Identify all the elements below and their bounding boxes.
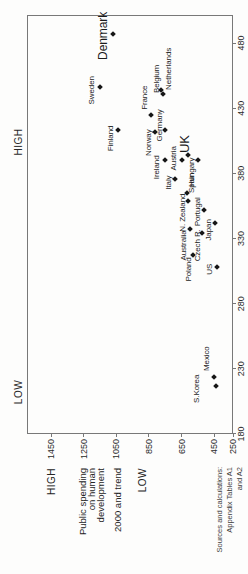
source-note-line-1: Sources and calculations: [215,467,224,574]
x-axis-low-label: LOW [13,367,24,417]
y-axis-tick [116,434,117,437]
y-axis-tick [51,434,52,437]
data-point-label: S.Korea [192,339,201,439]
x-axis-tick-label: 480 [236,30,246,56]
data-point-label: Finland [106,88,115,188]
y-axis-tick-label: 650 [177,439,187,471]
x-axis-tick-label: 230 [236,356,246,382]
data-point-label: Mexico [202,309,211,409]
y-axis-tick [148,434,149,437]
data-point-label: Ireland [152,117,161,217]
data-point-label: Denmark [96,0,110,86]
y-axis-low-label: LOW [137,468,148,574]
source-note-line-3: and A2 [235,467,244,574]
data-point-label: Poland [184,219,193,319]
y-axis-tick-label: 850 [144,439,154,471]
figure-page: LOW HIGH HIGH Public spending on human d… [0,0,248,574]
data-point-label: Sweden [87,40,96,140]
y-axis-tick [233,434,234,437]
y-axis-tick [181,434,182,437]
x-axis-tick-label: 280 [236,291,246,317]
data-point-label: Netherlands [164,19,173,119]
y-axis-high-label: HIGH [46,468,57,574]
y-axis-tick-label: 1250 [79,439,89,471]
y-axis-tick-label: 1450 [46,439,56,471]
rotated-chart-stage: LOW HIGH HIGH Public spending on human d… [0,0,248,574]
y-axis-tick [214,434,215,437]
y-axis-tick-label: 1050 [111,439,121,471]
x-axis-high-label: HIGH [13,117,24,167]
data-point-label: US [205,219,214,319]
x-axis-tick-label: 430 [236,95,246,121]
y-axis-title-line-3: development [95,468,106,574]
x-axis-tick-label: 380 [236,160,246,186]
data-point-label: Czech R. [193,195,202,295]
source-note-line-2: Appendix Tables A1 [225,467,234,574]
y-axis-tick-label: 250 [228,439,238,471]
y-axis-tick [83,434,84,437]
data-point-label: Italy [164,133,173,233]
y-axis-title-line-4: 2000 and trend [112,468,123,574]
x-axis-tick-label: 330 [236,226,246,252]
y-axis-tick-label: 450 [209,439,219,471]
